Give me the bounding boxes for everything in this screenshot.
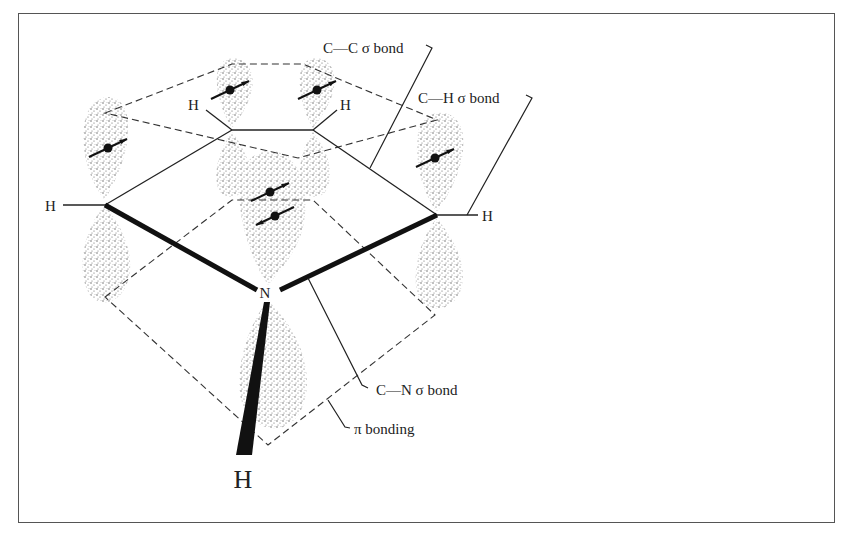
- atom-h-upper-right-label: H: [340, 97, 351, 113]
- label-pi-bonding: π bonding: [354, 421, 415, 437]
- bond-c5-n: [280, 215, 437, 290]
- atom-h-right-label: H: [482, 208, 493, 224]
- label-ch-sigma-bond: C—H σ bond: [418, 90, 500, 106]
- atom-n-label: N: [260, 285, 271, 301]
- electron-dot: [271, 212, 280, 221]
- atom-h-on-n-label: H: [234, 465, 253, 494]
- electron-dot: [226, 86, 235, 95]
- electron-dot: [431, 154, 440, 163]
- p-orbital-c5-lower-lobe: [416, 218, 463, 308]
- leader-cn-sigma: [308, 278, 368, 388]
- leader-pi-bonding: [328, 400, 350, 428]
- leader-ch-sigma: [467, 95, 532, 215]
- electron-dot: [104, 144, 113, 153]
- pyrrole-orbital-diagram: N H H H H H C—C σ bond C—H σ bond C—N σ …: [0, 0, 851, 535]
- p-orbital-c4-lower-lobe: [300, 132, 330, 197]
- atom-h-upper-left-label: H: [188, 97, 199, 113]
- label-cn-sigma-bond: C—N σ bond: [376, 382, 458, 398]
- pi-outline-upper: [105, 64, 437, 158]
- orbital-lobes: [83, 58, 464, 428]
- electron-dot: [313, 86, 322, 95]
- p-orbital-c2-lower-lobe: [83, 205, 131, 302]
- electron-dot: [266, 188, 275, 197]
- label-cc-sigma-bond: C—C σ bond: [323, 40, 404, 56]
- atom-h-left-label: H: [45, 198, 56, 214]
